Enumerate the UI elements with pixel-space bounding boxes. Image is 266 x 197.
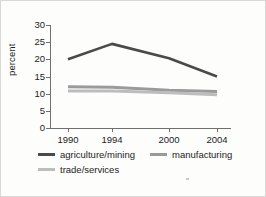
x-tick-label: 2004 [206, 135, 227, 145]
legend-label: manufacturing [172, 150, 232, 160]
legend-swatch-icon [38, 153, 55, 156]
x-tick-label: 1994 [101, 135, 122, 145]
y-tick-label: 10 [34, 89, 45, 99]
legend-label: trade/services [60, 165, 119, 175]
legend-item-trade-services: trade/services [38, 165, 119, 175]
legend-item-manufacturing: manufacturing [150, 150, 232, 160]
scan-artifact-speck [186, 178, 189, 180]
y-tick-label: 5 [40, 106, 45, 116]
legend-swatch-icon [150, 153, 167, 156]
y-tick-label: 30 [34, 20, 45, 30]
legend-row-2: trade/services [38, 165, 258, 180]
legend-swatch-icon [38, 168, 55, 171]
chart-legend: agriculture/mining manufacturing trade/s… [38, 150, 258, 180]
y-axis-title: percent [6, 44, 17, 76]
plot-area: 302520151050 1990199420002004 [50, 25, 230, 128]
legend-row-1: agriculture/mining manufacturing [38, 150, 258, 165]
y-tick-label: 20 [34, 55, 45, 65]
y-tick-label: 25 [34, 37, 45, 47]
legend-label: agriculture/mining [60, 150, 135, 160]
series-line [68, 44, 217, 77]
series-plot [50, 25, 231, 129]
y-tick-label: 0 [40, 123, 45, 133]
legend-item-agriculture-mining: agriculture/mining [38, 150, 135, 160]
chart-figure: percent 302520151050 1990199420002004 ag… [0, 0, 266, 197]
y-tick-label: 15 [34, 72, 45, 82]
x-tick-label: 2000 [158, 135, 179, 145]
x-tick-label: 1990 [57, 135, 78, 145]
